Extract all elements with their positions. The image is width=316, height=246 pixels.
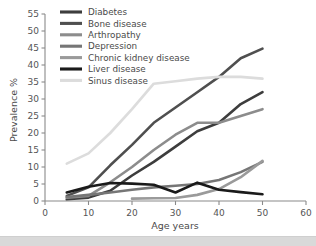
- y-axis-title-text: Prevalence %: [8, 78, 19, 142]
- x-tick-label: 40: [213, 208, 225, 218]
- y-tick-label: 45: [28, 43, 39, 53]
- y-tick-label: 30: [28, 94, 40, 104]
- legend-label-bone-disease: Bone disease: [88, 19, 147, 29]
- legend-label-chronic-kidney-disease: Chronic kidney disease: [88, 53, 190, 63]
- x-tick-label: 10: [83, 208, 95, 218]
- x-axis-title-text: Age years: [151, 220, 199, 231]
- y-tick-label: 10: [28, 162, 40, 172]
- x-axis-ticks: 0102030405060: [42, 201, 312, 218]
- series-line-sinus-disease: [67, 77, 263, 164]
- chart-legend: DiabetesBone diseaseArthropathyDepressio…: [60, 7, 190, 85]
- y-tick-label: 0: [33, 196, 39, 206]
- chart-container: Prevalence % 0510152025303540455055 0102…: [0, 0, 316, 246]
- y-tick-label: 50: [28, 26, 40, 36]
- x-tick-label: 60: [300, 208, 312, 218]
- y-tick-label: 35: [28, 77, 39, 87]
- x-tick-label: 0: [42, 208, 48, 218]
- y-tick-label: 15: [28, 145, 39, 155]
- legend-label-liver-disease: Liver disease: [88, 64, 146, 74]
- y-axis-ticks: 0510152025303540455055: [28, 9, 45, 206]
- y-axis-title: Prevalence %: [8, 78, 19, 142]
- y-tick-label: 25: [28, 111, 39, 121]
- legend-label-arthropathy: Arthropathy: [88, 30, 141, 40]
- y-tick-label: 40: [28, 60, 40, 70]
- x-tick-label: 20: [126, 208, 138, 218]
- bottom-status-bar: [0, 236, 316, 246]
- y-tick-label: 20: [28, 128, 40, 138]
- x-tick-label: 30: [170, 208, 182, 218]
- legend-label-diabetes: Diabetes: [88, 7, 127, 17]
- x-tick-label: 50: [257, 208, 269, 218]
- legend-label-sinus-disease: Sinus disease: [88, 76, 148, 86]
- y-tick-label: 5: [33, 179, 39, 189]
- legend-label-depression: Depression: [88, 41, 137, 51]
- prevalence-line-chart: Prevalence % 0510152025303540455055 0102…: [0, 0, 316, 237]
- y-tick-label: 55: [28, 9, 39, 19]
